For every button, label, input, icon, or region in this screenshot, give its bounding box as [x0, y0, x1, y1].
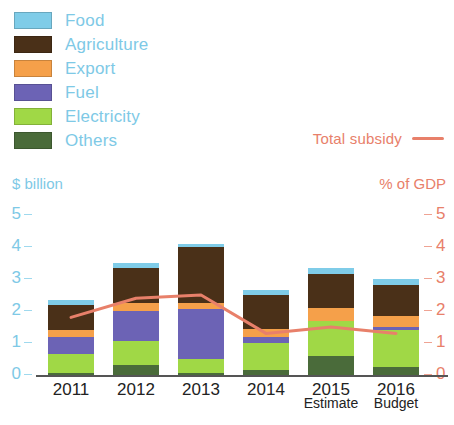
left-tick-3: 3	[2, 268, 32, 288]
bar-segment-2011-food[interactable]	[48, 300, 94, 305]
bar-segment-2016-agriculture[interactable]	[373, 285, 419, 315]
bar-2014[interactable]	[243, 0, 289, 375]
x-axis-baseline	[36, 375, 448, 377]
bar-segment-2014-export[interactable]	[243, 329, 289, 337]
bar-segment-2013-agriculture[interactable]	[178, 247, 224, 303]
bar-segment-2012-export[interactable]	[113, 303, 159, 311]
left-tick-2: 2	[2, 300, 32, 320]
bar-segment-2012-fuel[interactable]	[113, 311, 159, 341]
bar-segment-2014-electricity[interactable]	[243, 343, 289, 370]
bar-segment-2012-others[interactable]	[113, 365, 159, 375]
bar-segment-2013-fuel[interactable]	[178, 309, 224, 359]
right-tick-5: 5	[424, 204, 454, 224]
bar-segment-2013-food[interactable]	[178, 244, 224, 247]
right-tick-4: 4	[424, 236, 454, 256]
bar-segment-2012-food[interactable]	[113, 263, 159, 268]
bar-segment-2016-fuel[interactable]	[373, 327, 419, 330]
bar-segment-2014-agriculture[interactable]	[243, 295, 289, 329]
bar-2012[interactable]	[113, 0, 159, 375]
bar-segment-2015-electricity[interactable]	[308, 321, 354, 356]
chart-root: FoodAgricultureExportFuelElectricityOthe…	[0, 0, 454, 425]
x-label-2013: 2013	[166, 380, 236, 400]
bar-segment-2011-fuel[interactable]	[48, 337, 94, 355]
left-tick-4: 4	[2, 236, 32, 256]
bar-segment-2015-export[interactable]	[308, 308, 354, 321]
bar-2016[interactable]	[373, 0, 419, 375]
budget-note: Budget	[356, 395, 436, 411]
bar-segment-2013-electricity[interactable]	[178, 359, 224, 373]
right-tick-1: 1	[424, 332, 454, 352]
bar-segment-2012-electricity[interactable]	[113, 341, 159, 365]
left-tick-0: 0	[2, 364, 32, 384]
bar-segment-2015-others[interactable]	[308, 356, 354, 375]
bar-segment-2012-agriculture[interactable]	[113, 268, 159, 303]
bar-segment-2015-food[interactable]	[308, 268, 354, 274]
bar-segment-2015-agriculture[interactable]	[308, 274, 354, 308]
bar-segment-2011-agriculture[interactable]	[48, 305, 94, 331]
bar-segment-2016-food[interactable]	[373, 279, 419, 285]
left-tick-1: 1	[2, 332, 32, 352]
bar-2015[interactable]	[308, 0, 354, 375]
bar-segment-2016-export[interactable]	[373, 316, 419, 327]
bar-segment-2011-electricity[interactable]	[48, 354, 94, 373]
x-label-2011: 2011	[36, 380, 106, 400]
bar-segment-2011-export[interactable]	[48, 330, 94, 336]
bar-segment-2014-fuel[interactable]	[243, 337, 289, 343]
right-tick-2: 2	[424, 300, 454, 320]
bar-segment-2016-others[interactable]	[373, 367, 419, 375]
right-tick-3: 3	[424, 268, 454, 288]
bar-segment-2013-export[interactable]	[178, 303, 224, 309]
x-label-2012: 2012	[101, 380, 171, 400]
bar-2011[interactable]	[48, 0, 94, 375]
left-tick-5: 5	[2, 204, 32, 224]
bar-segment-2014-food[interactable]	[243, 290, 289, 295]
plot-area: 543210 543210 201120122013201420152016 E…	[0, 0, 454, 425]
bar-2013[interactable]	[178, 0, 224, 375]
bar-segment-2016-electricity[interactable]	[373, 330, 419, 367]
